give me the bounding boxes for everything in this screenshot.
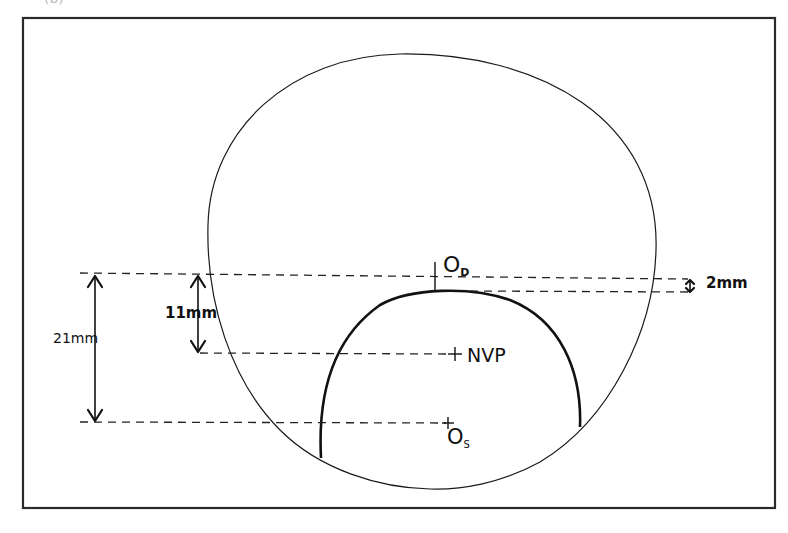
segment-top-line [470, 291, 692, 292]
os-reference-line [80, 422, 446, 423]
lens-outline [208, 54, 656, 489]
nvp-cross-icon [448, 347, 462, 361]
dim-21mm-label: 21mm [53, 330, 98, 346]
od-reference-line [80, 273, 688, 279]
nvp-reference-line [200, 353, 452, 354]
dimension-21mm-arrow [88, 276, 102, 421]
dim-11mm-label: 11mm [165, 304, 217, 322]
od-label: OD [443, 252, 469, 279]
os-label: OS [447, 425, 470, 450]
nvp-label: NVP [467, 344, 506, 366]
dimension-2mm-marker-icon [686, 280, 694, 292]
progressive-lens-diagram: OD NVP OS 21mm 11mm 2mm [0, 0, 788, 533]
dim-2mm-label: 2mm [706, 274, 748, 292]
figure-frame [23, 18, 775, 508]
